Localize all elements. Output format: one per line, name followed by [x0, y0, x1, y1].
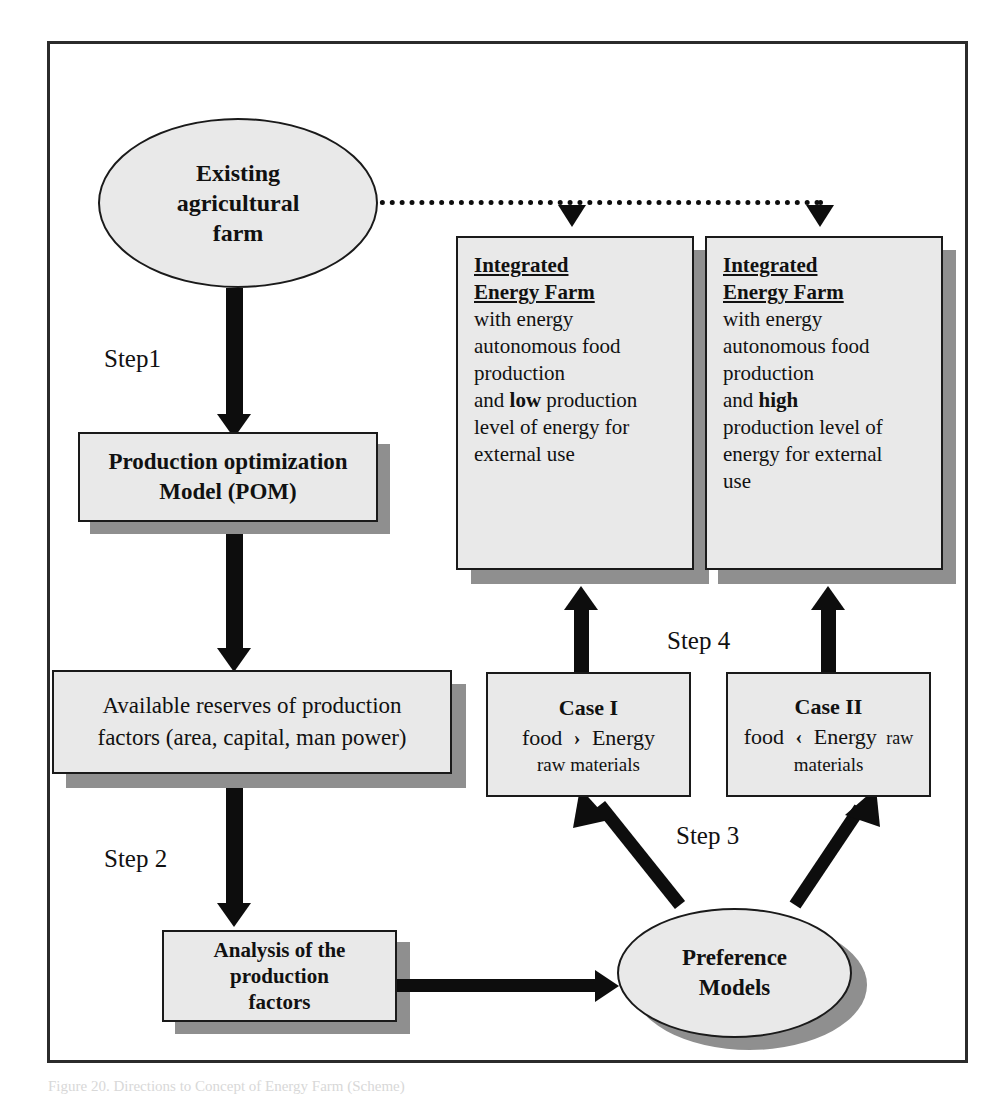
arrow-pom-to-reserves-head: [217, 648, 251, 672]
arrow-case2-to-ief-high-shaft: [821, 607, 836, 673]
analysis-line-2: production: [214, 963, 346, 989]
ief-low-body-4-post: production: [541, 388, 637, 412]
node-case-2[interactable]: Case II food ‹ Energy raw materials: [726, 672, 931, 797]
case-1-operator: ›: [568, 727, 587, 749]
ief-low-body-3: production: [474, 360, 637, 387]
ief-high-body-2: autonomous food: [723, 333, 883, 360]
node-production-optimization-model[interactable]: Production optimization Model (POM): [78, 432, 378, 522]
ief-high-body-4-strong: high: [759, 388, 799, 412]
case-2-raw: raw: [882, 728, 913, 748]
case-1-title: Case I: [522, 693, 655, 723]
case-2-materials: materials: [744, 753, 914, 777]
ief-low-body-6: external use: [474, 441, 637, 468]
node-preference-models[interactable]: Preference Models: [617, 908, 852, 1038]
existing-farm-line-1: Existing: [177, 158, 300, 188]
arrow-reserves-to-analysis-shaft: [226, 788, 243, 906]
arrow-farm-to-pom-shaft: [226, 288, 243, 418]
case-1-food: food: [522, 725, 562, 750]
case-2-energy: Energy: [814, 724, 877, 749]
ief-low-body-4-pre: and: [474, 388, 510, 412]
analysis-line-1: Analysis of the: [214, 937, 346, 963]
arrow-case2-to-ief-high-head: [811, 586, 845, 610]
ief-low-body-4: and low production: [474, 387, 637, 414]
node-integrated-energy-farm-low[interactable]: Integrated Energy Farm with energy auton…: [456, 236, 694, 570]
ief-high-body-5: production level of: [723, 414, 883, 441]
ief-low-body-5: level of energy for: [474, 414, 637, 441]
dotted-arrowhead-right: [806, 205, 834, 227]
arrow-analysis-to-preference-shaft: [393, 979, 603, 992]
pom-line-1: Production optimization: [108, 447, 347, 477]
preference-models-line-2: Models: [682, 973, 787, 1003]
ief-high-body-4-pre: and: [723, 388, 759, 412]
step-4-label: Step 4: [667, 627, 730, 655]
dotted-arrowhead-left: [558, 205, 586, 227]
ief-high-body-3: production: [723, 360, 883, 387]
arrow-case1-to-ief-low-shaft: [574, 607, 589, 673]
node-case-1[interactable]: Case I food › Energy raw materials: [486, 672, 691, 797]
existing-farm-line-3: farm: [177, 218, 300, 248]
ief-low-body-2: autonomous food: [474, 333, 637, 360]
node-existing-farm[interactable]: Existing agricultural farm: [98, 118, 378, 288]
case-2-food: food: [744, 724, 784, 749]
ief-high-body-7: use: [723, 468, 883, 495]
reserves-line-1: Available reserves of production: [97, 690, 406, 722]
ief-high-body-6: energy for external: [723, 441, 883, 468]
ief-low-body-1: with energy: [474, 306, 637, 333]
case-2-title: Case II: [744, 692, 914, 722]
ief-high-body-4: and high: [723, 387, 883, 414]
ief-high-title-line-1: Integrated: [723, 252, 883, 279]
figure-caption: Figure 20. Directions to Concept of Ener…: [48, 1078, 688, 1095]
ief-high-body-1: with energy: [723, 306, 883, 333]
ief-high-title-line-2: Energy Farm: [723, 279, 883, 306]
arrow-pom-to-reserves-shaft: [226, 534, 243, 649]
step-1-label: Step1: [104, 345, 161, 373]
step-2-label: Step 2: [104, 845, 167, 873]
figure-canvas: Existing agricultural farm Step1 Product…: [0, 0, 1008, 1097]
arrow-analysis-to-preference-head: [595, 970, 619, 1002]
ief-low-title-line-2: Energy Farm: [474, 279, 637, 306]
case-1-raw-materials: raw materials: [522, 753, 655, 777]
node-integrated-energy-farm-high[interactable]: Integrated Energy Farm with energy auton…: [705, 236, 943, 570]
arrow-case1-to-ief-low-head: [564, 586, 598, 610]
preference-models-line-1: Preference: [682, 943, 787, 973]
existing-farm-line-2: agricultural: [177, 188, 300, 218]
analysis-line-3: factors: [214, 989, 346, 1015]
step-3-label: Step 3: [676, 822, 739, 850]
pom-line-2: Model (POM): [108, 477, 347, 507]
node-analysis-production-factors[interactable]: Analysis of the production factors: [162, 930, 397, 1022]
arrow-reserves-to-analysis-head: [217, 903, 251, 927]
case-1-energy: Energy: [592, 725, 655, 750]
dotted-connector-line: [370, 200, 820, 205]
ief-low-body-4-strong: low: [510, 388, 542, 412]
reserves-line-2: factors (area, capital, man power): [97, 722, 406, 754]
case-2-operator: ‹: [790, 726, 809, 748]
node-available-reserves[interactable]: Available reserves of production factors…: [52, 670, 452, 774]
ief-low-title-line-1: Integrated: [474, 252, 637, 279]
